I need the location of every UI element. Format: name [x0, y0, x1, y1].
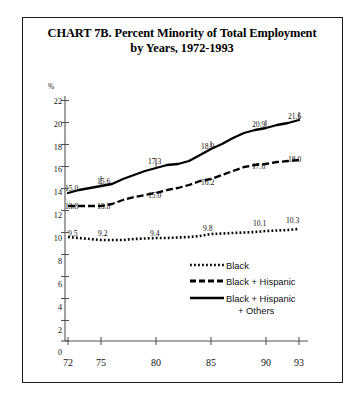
series-line-black-hispanic — [68, 160, 299, 206]
series-line-black — [68, 229, 299, 240]
series-line-black-hispanic-others — [68, 120, 299, 193]
chart-figure: CHART 7B. Percent Minority of Total Empl… — [0, 0, 363, 403]
annotation-leaders-solid — [101, 112, 299, 186]
plot-canvas — [0, 0, 363, 403]
